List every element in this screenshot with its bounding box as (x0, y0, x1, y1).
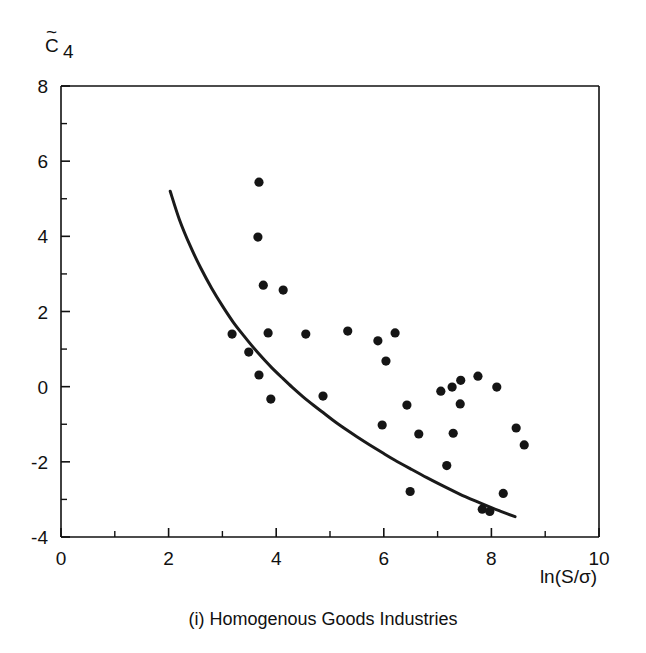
data-point (253, 232, 262, 241)
data-point (456, 399, 465, 408)
data-point (227, 329, 236, 338)
data-point (449, 429, 458, 438)
data-point (448, 382, 457, 391)
data-point (402, 400, 411, 409)
data-point (485, 507, 494, 516)
x-tick-label: 0 (56, 548, 67, 569)
data-point (373, 336, 382, 345)
x-axis-title: ln(S/σ) (540, 566, 597, 587)
y-axis-title-tilde: ~ (46, 21, 57, 42)
data-point (456, 376, 465, 385)
data-point (436, 387, 445, 396)
y-tick-label: -4 (31, 527, 48, 548)
y-tick-label: -2 (31, 452, 48, 473)
y-tick-label: 2 (37, 302, 48, 323)
data-point (254, 178, 263, 187)
y-axis-title-subscript: 4 (63, 41, 74, 62)
figure-caption: (i) Homogenous Goods Industries (188, 609, 457, 629)
x-tick-label: 8 (486, 548, 497, 569)
data-point (343, 326, 352, 335)
data-point (512, 423, 521, 432)
data-point (318, 391, 327, 400)
data-point (520, 440, 529, 449)
data-point (414, 429, 423, 438)
data-point (391, 328, 400, 337)
data-point (442, 461, 451, 470)
data-point (378, 420, 387, 429)
y-tick-label: 6 (37, 151, 48, 172)
figure-container: C ~ 4 -4-202468 0246810 ln(S/σ) (i) Homo… (0, 0, 646, 653)
x-tick-label: 2 (163, 548, 174, 569)
data-point (499, 489, 508, 498)
data-point (381, 357, 390, 366)
data-point (406, 487, 415, 496)
data-point (254, 370, 263, 379)
data-point (259, 281, 268, 290)
data-point (244, 347, 253, 356)
data-point (301, 329, 310, 338)
data-point (473, 372, 482, 381)
data-point (266, 394, 275, 403)
data-point (492, 382, 501, 391)
y-tick-label: 8 (37, 76, 48, 97)
data-point (279, 285, 288, 294)
data-point (264, 328, 273, 337)
scatter-plot: C ~ 4 -4-202468 0246810 ln(S/σ) (i) Homo… (0, 0, 646, 653)
y-tick-label: 0 (37, 377, 48, 398)
y-tick-label: 4 (37, 226, 48, 247)
x-tick-label: 4 (271, 548, 282, 569)
figure-background (0, 0, 646, 653)
x-tick-label: 6 (379, 548, 390, 569)
